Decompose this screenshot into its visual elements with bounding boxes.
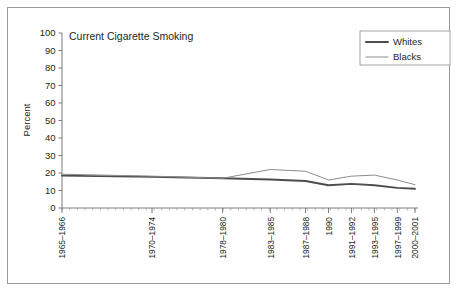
x-axis-tick-label: 1997–1999 xyxy=(393,217,403,259)
x-axis: 1965–19661970–19741978–19801983–19851987… xyxy=(57,208,420,259)
y-axis-tick-label: 70 xyxy=(45,80,56,91)
legend-label-blacks: Blacks xyxy=(393,51,421,62)
y-axis-tick-label: 60 xyxy=(45,97,56,108)
y-axis-tick-label: 10 xyxy=(45,185,56,196)
y-axis-tick-label: 50 xyxy=(45,115,56,126)
y-axis: 1009080706050403020100 xyxy=(40,27,62,213)
y-axis-title: Percent xyxy=(21,103,32,136)
x-axis-tick-label: 1970–1974 xyxy=(147,217,157,259)
x-axis-tick-label: 2000–2001 xyxy=(410,217,420,259)
x-axis-tick-label: 1987–1988 xyxy=(301,217,311,259)
y-axis-tick-label: 90 xyxy=(45,45,56,56)
y-axis-tick-label: 20 xyxy=(45,167,56,178)
y-axis-tick-label: 30 xyxy=(45,150,56,161)
y-axis-tick-label: 0 xyxy=(50,202,55,213)
x-axis-tick-label: 1990 xyxy=(324,217,334,236)
series-line-whites xyxy=(62,176,415,189)
x-axis-tick-label: 1978–1980 xyxy=(218,217,228,259)
data-series-group xyxy=(62,170,415,189)
x-axis-tick-label: 1965–1966 xyxy=(57,217,67,259)
y-axis-tick-label: 80 xyxy=(45,62,56,73)
figure-container: 1009080706050403020100 1965–19661970–197… xyxy=(0,0,459,293)
line-chart: 1009080706050403020100 1965–19661970–197… xyxy=(0,0,459,293)
y-axis-tick-label: 40 xyxy=(45,132,56,143)
y-axis-tick-label: 100 xyxy=(40,27,56,38)
chart-title: Current Cigarette Smoking xyxy=(69,30,193,42)
legend-label-whites: Whites xyxy=(393,36,422,47)
chart-legend: WhitesBlacks xyxy=(360,31,450,65)
x-axis-tick-label: 1991–1992 xyxy=(347,217,357,259)
x-axis-tick-label: 1983–1985 xyxy=(266,217,276,259)
x-axis-tick-label: 1993–1995 xyxy=(370,217,380,259)
